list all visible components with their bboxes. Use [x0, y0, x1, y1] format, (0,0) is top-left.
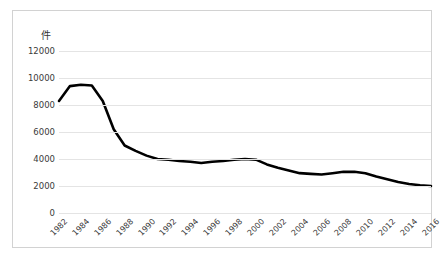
x-tick-2008: 2008 — [333, 217, 354, 238]
gridline-2000 — [59, 186, 431, 187]
x-tick-2012: 2012 — [377, 217, 398, 238]
x-tick-2014: 2014 — [399, 217, 420, 238]
y-tick-8000: 8000 — [15, 100, 55, 110]
x-tick-2000: 2000 — [246, 217, 267, 238]
x-tick-1992: 1992 — [158, 217, 179, 238]
x-tick-1988: 1988 — [114, 217, 135, 238]
y-axis-tick-labels: 120001000080006000400020000 — [13, 51, 55, 213]
chart-frame: 件 120001000080006000400020000 1982198419… — [12, 10, 432, 248]
x-tick-1996: 1996 — [202, 217, 223, 238]
y-tick-6000: 6000 — [15, 127, 55, 137]
x-tick-1984: 1984 — [70, 217, 91, 238]
x-tick-2010: 2010 — [355, 217, 376, 238]
y-tick-2000: 2000 — [15, 181, 55, 191]
series-line-kensu — [59, 85, 431, 186]
clipped-title-text: — ——— ——— — [183, 0, 261, 3]
gridline-6000 — [59, 132, 431, 133]
x-tick-2002: 2002 — [267, 217, 288, 238]
x-tick-1998: 1998 — [224, 217, 245, 238]
x-tick-2006: 2006 — [311, 217, 332, 238]
plot-area — [59, 51, 431, 213]
x-axis-tick-labels: 1982198419861988199019921994199619982000… — [59, 215, 431, 260]
y-axis-unit-label: 件 — [41, 27, 51, 42]
x-tick-1990: 1990 — [136, 217, 157, 238]
gridline-4000 — [59, 159, 431, 160]
gridline-0 — [59, 213, 431, 214]
x-tick-1994: 1994 — [180, 217, 201, 238]
x-tick-1982: 1982 — [49, 217, 70, 238]
y-tick-12000: 12000 — [15, 46, 55, 56]
x-tick-1986: 1986 — [92, 217, 113, 238]
gridline-12000 — [59, 51, 431, 52]
clipped-title-strip: — ——— ——— — [0, 0, 445, 9]
y-tick-4000: 4000 — [15, 154, 55, 164]
x-tick-2004: 2004 — [289, 217, 310, 238]
gridline-10000 — [59, 78, 431, 79]
y-tick-0: 0 — [15, 208, 55, 218]
y-tick-10000: 10000 — [15, 73, 55, 83]
gridline-8000 — [59, 105, 431, 106]
x-tick-2016: 2016 — [421, 217, 442, 238]
